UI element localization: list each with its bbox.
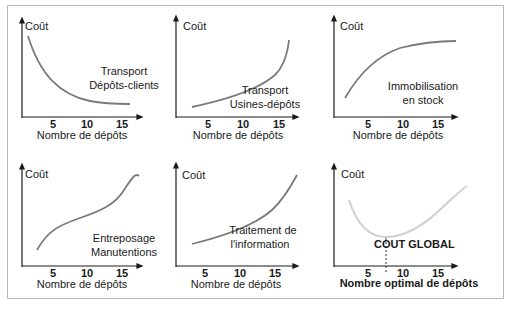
panel-transport-depots-clients: Coût Transport Dépôts-clients 5 10 15 No… <box>22 20 159 141</box>
x-axis-label: Nombre de dépôts <box>37 129 128 141</box>
curve-label: COUT GLOBAL <box>374 238 455 250</box>
cost-diagram: Coût Transport Dépôts-clients 5 10 15 No… <box>0 0 516 309</box>
curve-label-line1: Immobilisation <box>388 80 458 92</box>
curve-label-line1: Traitement de <box>229 224 296 236</box>
y-axis-label: Coût <box>340 20 363 32</box>
cost-curve <box>192 40 289 107</box>
y-axis-label: Coût <box>341 168 364 180</box>
curve-label-line2: Dépôts-clients <box>89 79 159 91</box>
y-axis-label: Coût <box>25 20 48 32</box>
x-axis-label: Nombre de dépôts <box>353 129 444 141</box>
y-axis-label: Coût <box>183 20 206 32</box>
global-cost-curve <box>349 186 467 237</box>
curve-label-line2: l'information <box>231 238 290 250</box>
panel-traitement-information: Coût Traitement de l'information 5 10 15… <box>176 165 297 290</box>
curve-label-line2: en stock <box>403 94 444 106</box>
x-axis-label: Nombre de dépôts <box>193 129 284 141</box>
x-axis-label: Nombre de dépôts <box>191 278 282 290</box>
curve-label-line1: Transport <box>101 65 148 77</box>
curve-label-line2: Manutentions <box>91 246 158 258</box>
x-axis-label: Nombre optimal de dépôts <box>340 277 479 289</box>
panel-transport-usines-depots: Coût Transport Usines-dépôts 5 10 15 Nom… <box>176 18 301 141</box>
curve-label-line2: Usines-dépôts <box>230 98 301 110</box>
panel-entreposage-manutentions: Coût Entreposage Manutentions 5 10 15 No… <box>22 166 158 290</box>
panel-cout-global: Coût COUT GLOBAL 5 10 15 Nombre optimal … <box>334 166 478 289</box>
panel-immobilisation-stock: Coût Immobilisation en stock 5 10 15 Nom… <box>334 18 458 141</box>
curve-label-line1: Entreposage <box>93 232 155 244</box>
curve-label-line1: Transport <box>242 84 289 96</box>
y-axis-label: Coût <box>182 169 205 181</box>
x-axis-label: Nombre de dépôts <box>37 278 128 290</box>
y-axis-label: Coût <box>25 168 48 180</box>
